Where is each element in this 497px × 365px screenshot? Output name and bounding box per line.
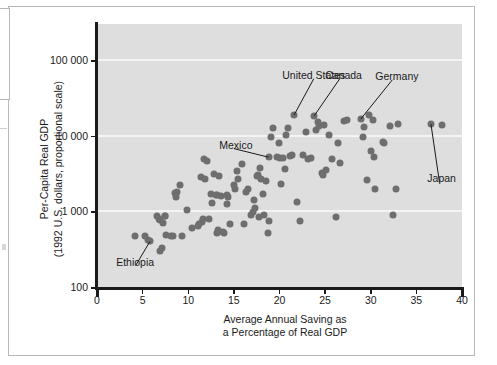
scatter-chart: 0510152025303540 1001 00010 000100 000 U… bbox=[0, 0, 497, 365]
data-point bbox=[333, 213, 340, 220]
data-point bbox=[344, 117, 351, 124]
data-point bbox=[250, 196, 257, 203]
y-axis-line bbox=[95, 22, 98, 289]
y-tick-label: 100 000 bbox=[50, 54, 88, 66]
data-point bbox=[381, 139, 388, 146]
y-tick-label: 1 000 bbox=[62, 205, 88, 217]
data-point bbox=[158, 244, 165, 251]
x-tick-label: 40 bbox=[456, 294, 468, 306]
y-tick bbox=[91, 211, 96, 213]
data-point bbox=[240, 220, 247, 227]
annotation-canada: Canada bbox=[325, 69, 362, 81]
x-axis-title: Average Annual Saving as a Percentage of… bbox=[175, 313, 395, 339]
x-axis-title-line1: Average Annual Saving as bbox=[175, 313, 395, 326]
data-point bbox=[264, 229, 271, 236]
x-tick-label: 10 bbox=[182, 294, 194, 306]
data-point bbox=[359, 134, 366, 141]
y-axis-title-line1: Per-Capita Real GDP bbox=[37, 74, 51, 264]
annotation-japan: Japan bbox=[427, 172, 456, 184]
data-point bbox=[302, 129, 309, 136]
data-point bbox=[132, 233, 139, 240]
data-point bbox=[260, 211, 267, 218]
figure-page: 0510152025303540 1001 00010 000100 000 U… bbox=[0, 0, 497, 365]
data-point bbox=[278, 181, 285, 188]
data-point bbox=[297, 217, 304, 224]
y-axis-title: Per-Capita Real GDP (1992 U.S. dollars, … bbox=[37, 74, 65, 264]
data-point bbox=[325, 131, 332, 138]
data-point bbox=[372, 185, 379, 192]
data-point bbox=[270, 125, 277, 132]
data-point bbox=[284, 124, 291, 131]
data-point bbox=[146, 238, 153, 245]
data-point bbox=[393, 186, 400, 193]
gridline bbox=[97, 210, 462, 212]
data-point bbox=[260, 190, 267, 197]
data-point bbox=[280, 155, 287, 162]
x-tick-label: 15 bbox=[228, 294, 240, 306]
data-point bbox=[369, 116, 376, 123]
data-point bbox=[169, 233, 176, 240]
plot-area bbox=[97, 24, 462, 287]
data-point bbox=[159, 220, 166, 227]
data-point bbox=[336, 159, 343, 166]
x-axis-title-line2: a Percentage of Real GDP bbox=[175, 326, 395, 339]
data-point bbox=[323, 167, 330, 174]
data-point bbox=[178, 233, 185, 240]
data-point bbox=[427, 121, 434, 128]
data-point bbox=[239, 161, 246, 168]
data-point bbox=[291, 111, 298, 118]
data-point bbox=[220, 229, 227, 236]
data-point bbox=[293, 198, 300, 205]
x-tick-label: 30 bbox=[365, 294, 377, 306]
data-point bbox=[364, 176, 371, 183]
x-tick-label: 35 bbox=[411, 294, 423, 306]
data-point bbox=[162, 212, 169, 219]
data-point bbox=[231, 186, 238, 193]
data-point bbox=[266, 218, 273, 225]
data-point bbox=[357, 116, 364, 123]
data-point bbox=[262, 177, 269, 184]
data-point bbox=[282, 131, 289, 138]
data-point bbox=[329, 156, 336, 163]
gridline bbox=[97, 135, 462, 137]
data-point bbox=[225, 193, 232, 200]
data-point bbox=[223, 201, 230, 208]
data-point bbox=[289, 151, 296, 158]
gridline bbox=[97, 59, 462, 61]
annotation-mexico: Mexico bbox=[219, 139, 252, 151]
y-axis-title-line2: (1992 U.S. dollars, proportional scale) bbox=[51, 74, 65, 264]
data-point bbox=[321, 122, 328, 129]
data-point bbox=[371, 154, 378, 161]
data-point bbox=[201, 175, 208, 182]
data-point bbox=[177, 181, 184, 188]
y-tick bbox=[91, 287, 96, 289]
y-tick-label: 100 bbox=[70, 281, 88, 293]
data-point bbox=[334, 140, 341, 147]
data-point bbox=[257, 164, 264, 171]
data-point bbox=[203, 158, 210, 165]
data-point bbox=[307, 154, 314, 161]
data-point bbox=[361, 124, 368, 131]
data-point bbox=[233, 167, 240, 174]
data-point bbox=[251, 204, 258, 211]
data-point bbox=[395, 120, 402, 127]
data-point bbox=[389, 211, 396, 218]
x-tick-label: 20 bbox=[274, 294, 286, 306]
x-tick-label: 0 bbox=[94, 294, 100, 306]
data-point bbox=[216, 173, 223, 180]
y-tick bbox=[91, 136, 96, 138]
data-point bbox=[265, 154, 272, 161]
data-point bbox=[227, 220, 234, 227]
data-point bbox=[281, 165, 288, 172]
annotation-ethiopia: Ethiopia bbox=[116, 256, 154, 268]
data-point bbox=[275, 140, 282, 147]
data-point bbox=[245, 185, 252, 192]
data-point bbox=[208, 200, 215, 207]
y-tick bbox=[91, 60, 96, 62]
data-point bbox=[438, 122, 445, 129]
data-point bbox=[235, 175, 242, 182]
data-point bbox=[386, 122, 393, 129]
annotation-germany: Germany bbox=[375, 70, 418, 82]
x-tick-label: 5 bbox=[140, 294, 146, 306]
x-tick-label: 25 bbox=[319, 294, 331, 306]
